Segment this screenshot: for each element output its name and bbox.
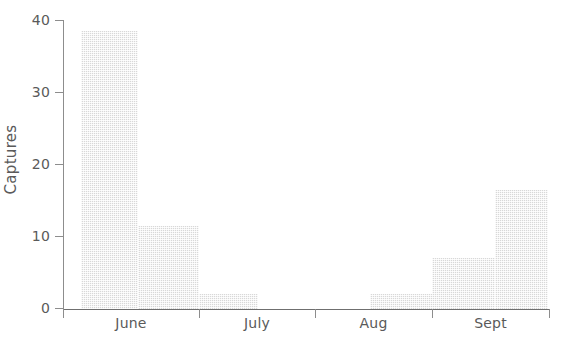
x-axis-tick-end — [549, 309, 550, 318]
x-axis-category-june: June — [63, 315, 199, 331]
bar-aug-2 — [370, 294, 432, 309]
bar-sept-2 — [495, 190, 548, 309]
bar-june-1 — [81, 31, 138, 309]
bar-chart: 40 30 20 10 0 Captures June July Aug Sep… — [0, 0, 563, 342]
x-axis-category-aug: Aug — [315, 315, 432, 331]
x-axis-category-july: July — [199, 315, 315, 331]
bar-june-2 — [138, 226, 199, 309]
bar-july-1 — [199, 294, 258, 309]
x-axis-category-sept: Sept — [432, 315, 549, 331]
x-axis-line — [63, 309, 550, 310]
bar-sept-1 — [432, 258, 495, 309]
plot-area — [0, 0, 563, 342]
